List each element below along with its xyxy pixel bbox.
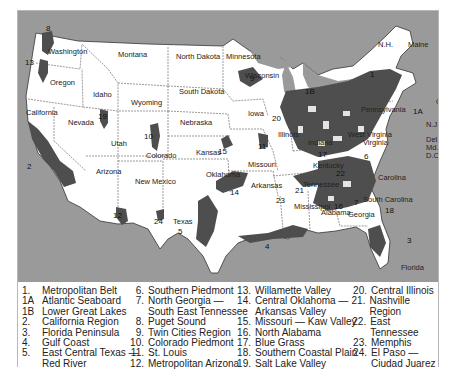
region-number: 17 xyxy=(318,151,327,159)
region-number: 12 xyxy=(113,212,122,220)
legend-number: 12. xyxy=(126,359,144,369)
region-number: 13 xyxy=(25,59,34,67)
state-label: California xyxy=(26,109,58,117)
state-label: Conn. xyxy=(436,98,438,106)
state-label: Pennsylvania xyxy=(361,106,406,114)
legend-item: 21.Nashville Region xyxy=(349,296,438,317)
legend-number: 14. xyxy=(233,296,251,306)
region-number: 22 xyxy=(336,170,345,178)
state-label: Oklahoma xyxy=(206,171,240,179)
region-number: 5 xyxy=(178,228,182,236)
state-label: Iowa xyxy=(248,110,264,118)
region-number: 19 xyxy=(98,113,107,121)
legend-label: Ciudad Juarez xyxy=(371,359,435,369)
legend-item: 22.East Tennessee xyxy=(349,317,438,338)
region-number: 15 xyxy=(218,148,227,156)
state-label: Arkansas xyxy=(251,182,282,190)
state-label: Utah xyxy=(111,140,127,148)
state-label: N.J. xyxy=(426,121,438,129)
state-label: Washington xyxy=(48,48,87,56)
region-number: 6 xyxy=(364,153,368,161)
region-number: 14 xyxy=(230,189,239,197)
state-label: Florida xyxy=(401,264,424,272)
legend-item: 10.Colorado Piedmont xyxy=(126,338,248,348)
state-label: Colorado xyxy=(146,152,176,160)
state-label: D.C. xyxy=(426,152,438,160)
region-number: 4 xyxy=(265,243,269,251)
state-label: Arizona xyxy=(96,168,121,176)
state-label: Georgia xyxy=(348,211,375,219)
region-number: 3 xyxy=(407,237,411,245)
state-label: Minnesota xyxy=(226,53,261,61)
legend-item: 12.Metropolitan Arizona xyxy=(126,359,248,369)
legend-column-1: 1.Metropolitan Belt1AAtlantic Seaboard1B… xyxy=(22,286,139,369)
legend-column-3: 13.Willamette Valley14.Central Oklahoma … xyxy=(233,286,357,369)
figure-frame: WashingtonMontanaNorth DakotaMinnesotaMa… xyxy=(17,10,439,367)
region-number: 2 xyxy=(27,163,31,171)
region-number: 24 xyxy=(154,218,163,226)
state-label: West Virginia xyxy=(348,131,392,139)
legend-column-4: 20.Central Illinois21.Nashville Region22… xyxy=(349,286,438,369)
region-number: 7 xyxy=(354,199,358,207)
state-label: Oregon xyxy=(50,79,75,87)
state-label: Nevada xyxy=(68,119,94,127)
state-label: South Carolina xyxy=(363,196,413,204)
state-label: South Dakota xyxy=(179,88,224,96)
state-label: Maine xyxy=(408,41,428,49)
legend: 1.Metropolitan Belt1AAtlantic Seaboard1B… xyxy=(18,281,438,367)
legend-label: Metropolitan Arizona xyxy=(148,359,239,369)
state-label: Illinois xyxy=(278,131,299,139)
state-label: Carolina xyxy=(378,174,406,182)
legend-column-2: 6.Southern Piedmont7.North Georgia —0.So… xyxy=(126,286,248,369)
legend-label: Salt Lake Valley xyxy=(255,359,326,369)
state-label: Wyoming xyxy=(131,99,162,107)
region-number: 10 xyxy=(144,133,153,141)
legend-item: 0.Ciudad Juarez xyxy=(349,359,438,369)
state-label: N.H. xyxy=(378,41,393,49)
region-number: 8 xyxy=(46,25,50,33)
region-number: 21 xyxy=(295,187,304,195)
state-label: Tennessee xyxy=(303,181,339,189)
state-label: Nebraska xyxy=(180,119,212,127)
legend-number: 21. xyxy=(349,296,365,317)
region-number: 16 xyxy=(334,203,343,211)
state-label: Montana xyxy=(118,51,147,59)
region-number: 23 xyxy=(276,197,285,205)
legend-item: 0.Red River xyxy=(22,359,139,369)
legend-item: 19.Salt Lake Valley xyxy=(233,359,357,369)
region-number: 20 xyxy=(272,115,281,123)
state-label: New Mexico xyxy=(135,178,176,186)
legend-label: Nashville Region xyxy=(369,296,438,317)
legend-number: 22. xyxy=(349,317,366,338)
legend-number: 5. xyxy=(22,348,38,358)
region-number: 9 xyxy=(250,75,254,83)
region-number: 18 xyxy=(385,207,394,215)
region-number: 1B xyxy=(305,88,315,96)
state-label: Texas xyxy=(173,218,193,226)
legend-label: East Tennessee xyxy=(370,317,438,338)
state-label: Virginia xyxy=(363,139,388,147)
legend-number: 24. xyxy=(349,348,367,358)
region-number: 11 xyxy=(258,143,266,151)
us-map: WashingtonMontanaNorth DakotaMinnesotaMa… xyxy=(18,11,438,281)
region-number: 1 xyxy=(370,71,374,79)
state-label: Idaho xyxy=(93,91,112,99)
legend-number: 7. xyxy=(126,296,144,306)
state-label: North Dakota xyxy=(176,53,220,61)
legend-number: 19. xyxy=(233,359,251,369)
state-label: Missouri xyxy=(248,161,276,169)
state-label: Indiana xyxy=(308,139,333,147)
region-number: 1A xyxy=(413,108,423,116)
legend-label: Red River xyxy=(42,359,86,369)
